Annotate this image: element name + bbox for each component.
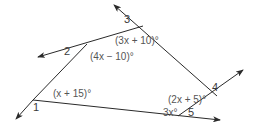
exterior-angle-label-4: 4 (212, 82, 218, 93)
interior-angle-expr-4: (2x + 5)° (168, 95, 206, 105)
interior-angle-expr-2: (4x − 10)° (90, 52, 134, 62)
exterior-angle-label-2: 2 (64, 46, 70, 57)
exterior-angle-label-3: 3 (124, 14, 130, 25)
exterior-angle-label-5: 5 (188, 107, 194, 118)
exterior-angle-label-1: 1 (33, 102, 39, 113)
interior-angle-expr-5: 3x° (163, 108, 178, 118)
interior-angle-expr-1: (x + 15)° (53, 89, 91, 99)
ray-1 (16, 100, 33, 119)
interior-angle-expr-3: (3x + 10)° (115, 36, 159, 46)
